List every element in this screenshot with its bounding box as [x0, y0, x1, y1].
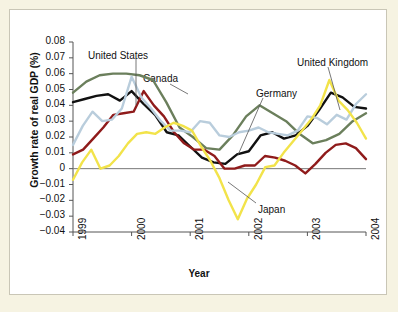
line-chart-plot [10, 10, 388, 296]
series-layer [73, 74, 366, 220]
figure-panel: Growth rate of real GDP (%) Year 0.080.0… [9, 9, 387, 295]
axis-layer [69, 42, 366, 236]
